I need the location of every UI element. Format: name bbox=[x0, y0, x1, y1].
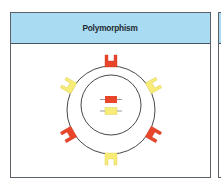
nucleus bbox=[81, 75, 141, 135]
allele-red bbox=[100, 96, 122, 103]
allele-yellow bbox=[100, 108, 122, 115]
cell-diagram bbox=[0, 0, 221, 190]
receptor-red bbox=[60, 126, 76, 142]
receptor-red bbox=[105, 55, 117, 67]
receptor-red bbox=[145, 126, 161, 142]
receptor-yellow bbox=[145, 77, 161, 93]
receptor-yellow bbox=[105, 153, 117, 165]
receptor-yellow bbox=[60, 77, 76, 93]
